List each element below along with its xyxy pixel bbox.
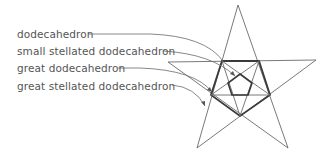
label-great-dodecahedron: great dodecahedron xyxy=(17,62,125,74)
label-dodecahedron: dodecahedron xyxy=(17,28,94,40)
small-inner-pentagon xyxy=(228,74,252,95)
label-small-stellated-dodecahedron: small stellated dodecahedron xyxy=(17,45,175,57)
label-great-stellated-dodecahedron: great stellated dodecahedron xyxy=(17,80,175,92)
pentagram-diagram xyxy=(0,0,331,155)
leader-great-stellated xyxy=(172,85,205,106)
